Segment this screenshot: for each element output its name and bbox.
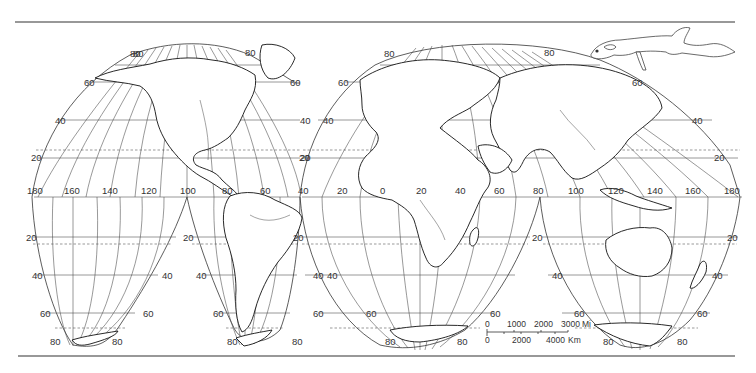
svg-text:20: 20 [532, 232, 543, 243]
svg-text:80: 80 [292, 336, 303, 347]
scale-km-0: 0 [485, 335, 490, 345]
svg-text:60: 60 [697, 308, 708, 319]
svg-text:60: 60 [40, 308, 51, 319]
world-map: 80 80 60 60 40 40 20 20 80 80 80 60 60 4… [0, 0, 756, 373]
australia-land [606, 228, 672, 277]
svg-text:120: 120 [141, 185, 157, 196]
scale-mi-1000: 1000 [507, 319, 526, 329]
svg-text:60: 60 [260, 185, 271, 196]
svg-text:140: 140 [647, 185, 663, 196]
svg-text:40: 40 [313, 270, 324, 281]
svg-text:80: 80 [544, 47, 555, 58]
svg-text:100: 100 [568, 185, 584, 196]
svg-text:80: 80 [227, 336, 238, 347]
svg-text:80: 80 [222, 185, 233, 196]
svg-text:60: 60 [632, 77, 643, 88]
svg-text:60: 60 [366, 308, 377, 319]
svg-text:20: 20 [26, 232, 37, 243]
svg-text:40: 40 [552, 270, 563, 281]
svg-text:20: 20 [299, 152, 310, 163]
svg-text:40: 40 [55, 115, 66, 126]
svg-text:100: 100 [180, 185, 196, 196]
svg-text:40: 40 [162, 270, 173, 281]
svg-text:80: 80 [50, 336, 61, 347]
svg-text:80: 80 [133, 48, 144, 59]
svg-text:60: 60 [84, 77, 95, 88]
svg-text:80: 80 [603, 336, 614, 347]
svg-text:20: 20 [293, 232, 304, 243]
scale-bar: 0 1000 2000 3000 Mi 0 2000 4000 Km [485, 319, 591, 345]
scale-mi-0: 0 [485, 319, 490, 329]
svg-text:20: 20 [416, 185, 427, 196]
svg-text:20: 20 [727, 232, 738, 243]
svg-text:80: 80 [384, 48, 395, 59]
svg-text:80: 80 [677, 336, 688, 347]
svg-text:120: 120 [608, 185, 624, 196]
svg-text:60: 60 [143, 308, 154, 319]
svg-text:160: 160 [685, 185, 701, 196]
svg-text:40: 40 [323, 115, 334, 126]
north-america-land [95, 58, 256, 196]
svg-text:80: 80 [533, 185, 544, 196]
svg-text:40: 40 [692, 115, 703, 126]
svg-text:80: 80 [385, 336, 396, 347]
svg-text:20: 20 [337, 185, 348, 196]
south-america-land [223, 193, 302, 332]
svg-text:180: 180 [724, 185, 740, 196]
svg-text:40: 40 [712, 270, 723, 281]
reptile-illustration [591, 27, 735, 70]
svg-text:20: 20 [714, 152, 725, 163]
svg-text:140: 140 [102, 185, 118, 196]
scale-km-4000: 4000 [546, 335, 565, 345]
svg-text:0: 0 [380, 185, 385, 196]
scale-km-2000: 2000 [512, 335, 531, 345]
svg-text:40: 40 [196, 270, 207, 281]
svg-text:60: 60 [338, 77, 349, 88]
scale-mi-3000: 3000 [561, 319, 580, 329]
svg-text:40: 40 [455, 185, 466, 196]
svg-text:40: 40 [32, 270, 43, 281]
svg-text:80: 80 [245, 47, 256, 58]
svg-text:60: 60 [494, 185, 505, 196]
scale-mi-unit: Mi [582, 319, 591, 329]
svg-text:60: 60 [313, 308, 324, 319]
scale-mi-2000: 2000 [534, 319, 553, 329]
svg-text:60: 60 [290, 77, 301, 88]
svg-text:40: 40 [298, 185, 309, 196]
svg-text:20: 20 [183, 232, 194, 243]
svg-text:180: 180 [27, 185, 43, 196]
svg-text:80: 80 [112, 336, 123, 347]
svg-text:60: 60 [213, 308, 224, 319]
svg-text:60: 60 [574, 308, 585, 319]
madagascar [470, 228, 479, 246]
svg-text:160: 160 [64, 185, 80, 196]
scale-km-unit: Km [568, 335, 581, 345]
svg-text:40: 40 [327, 270, 338, 281]
antarctica-sa [236, 330, 272, 346]
svg-text:60: 60 [490, 308, 501, 319]
svg-text:80: 80 [457, 336, 468, 347]
greenland [260, 44, 295, 79]
svg-text:20: 20 [31, 152, 42, 163]
svg-text:40: 40 [300, 115, 311, 126]
